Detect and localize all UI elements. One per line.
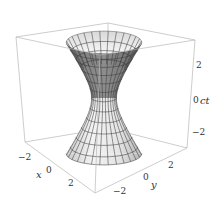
hyperboloid-3d-plot: −2 0 2 x −2 0 2 y 2 0 −2 ct	[0, 0, 221, 214]
y-tick-0: 0	[143, 172, 149, 182]
y-axis-label: y	[150, 179, 157, 190]
x-tick-0: 0	[46, 165, 52, 175]
y-tick-neg2: −2	[113, 186, 126, 196]
z-axis-label: ct	[200, 95, 211, 106]
x-tick-2: 2	[68, 178, 74, 188]
z-tick-2: 2	[196, 60, 202, 70]
x-axis-label: x	[36, 169, 42, 180]
hyperboloid-surface	[66, 31, 142, 165]
y-tick-2: 2	[168, 160, 174, 170]
x-tick-neg2: −2	[18, 152, 31, 162]
z-axis: 2 0 −2 ct	[192, 60, 211, 137]
z-tick-0: 0	[193, 95, 199, 105]
z-tick-neg2: −2	[192, 127, 205, 137]
y-axis: −2 0 2 y	[113, 160, 174, 196]
